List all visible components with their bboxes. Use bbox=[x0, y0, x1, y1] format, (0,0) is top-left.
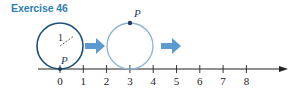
tick-label: 8 bbox=[244, 75, 250, 87]
tick-label: 5 bbox=[174, 75, 180, 87]
radius-label: 1 bbox=[58, 32, 63, 43]
rolling-circle-diagram: 012345678 1 P P bbox=[0, 0, 294, 91]
point-p-rolled bbox=[128, 21, 132, 25]
tick-label: 0 bbox=[57, 75, 63, 87]
right-arrow-icon bbox=[161, 38, 181, 54]
right-arrow-icon bbox=[85, 38, 105, 54]
point-p-start bbox=[58, 67, 62, 71]
tick-marks: 012345678 bbox=[57, 65, 249, 87]
tick-label: 2 bbox=[104, 75, 110, 87]
tick-label: 4 bbox=[150, 75, 156, 87]
tick-label: 6 bbox=[197, 75, 203, 87]
axis-arrowhead-icon bbox=[279, 66, 288, 72]
point-p-label-start: P bbox=[60, 54, 68, 66]
tick-label: 1 bbox=[81, 75, 87, 87]
tick-label: 3 bbox=[127, 75, 133, 87]
tick-label: 7 bbox=[220, 75, 226, 87]
rolled-circle bbox=[107, 23, 153, 69]
point-p-label-rolled: P bbox=[133, 7, 141, 19]
